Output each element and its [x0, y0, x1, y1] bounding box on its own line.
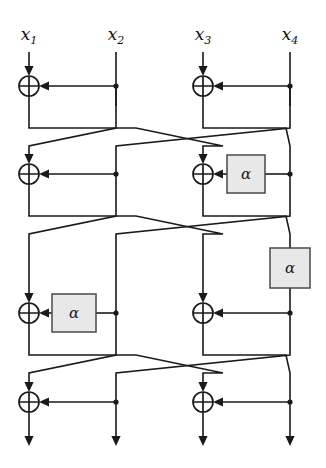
- input-label-x1: x1: [21, 24, 38, 47]
- output-arrowhead-out1: [24, 436, 33, 446]
- input-arrowhead-x3: [198, 66, 207, 76]
- feistel-diagram-root: ααα x1x2x3x4: [0, 0, 326, 468]
- function-box-alpha-r2-right: α: [227, 155, 265, 193]
- output-arrowhead-out4: [285, 436, 294, 446]
- function-box-alpha-r3-left: α: [52, 294, 96, 332]
- feed-arrowhead-left-r1: [39, 81, 49, 90]
- feistel-network-diagram: ααα x1x2x3x4: [0, 0, 326, 468]
- function-box-label-alpha-r3-left: α: [69, 304, 79, 322]
- perm2-wire-c1-to-c3: [29, 194, 223, 280]
- perm3-wire-c1-to-c3: [29, 333, 223, 382]
- tap-dot-tap-r1-c2: [113, 83, 118, 88]
- perm3-wire-c2-to-c1: [29, 333, 116, 382]
- perm2-wire-c2-to-c1: [29, 194, 116, 280]
- xor-gate-xor-r2-left: [19, 164, 39, 184]
- fbox-layer: ααα: [52, 155, 310, 332]
- perm3-wire-c3-to-c4: [203, 333, 290, 382]
- function-box-label-alpha-inline-right: α: [285, 259, 295, 277]
- output-arrowhead-out2: [111, 436, 120, 446]
- perm1-wire-c1-to-c3: [29, 106, 223, 154]
- input-arrowhead-x1: [24, 66, 33, 76]
- feed-arrowhead-right-r2: [213, 169, 223, 178]
- feed-arrowhead-right-r4: [213, 397, 223, 406]
- xor-gate-xor-r1-left: [19, 76, 39, 96]
- xor-gate-xor-r2-right: [193, 164, 213, 184]
- tap-dot-tap-r2-c4: [287, 171, 292, 176]
- function-box-label-alpha-r2-right: α: [241, 165, 251, 183]
- xor-gate-xor-r4-right: [193, 392, 213, 412]
- input-label-x3: x3: [195, 24, 212, 47]
- tap-dot-tap-r2-c2: [113, 171, 118, 176]
- feed-arrowhead-left-r2: [39, 169, 49, 178]
- tap-dot-tap-r3-c2: [113, 310, 118, 315]
- input-label-x4: x4: [282, 24, 299, 47]
- tap-dot-tap-r4-c4: [287, 399, 292, 404]
- tap-dot-tap-r1-c4: [287, 83, 292, 88]
- feed-arrowhead-left-r3: [39, 308, 49, 317]
- feed-arrowhead-right-r1: [213, 81, 223, 90]
- feed-arrowhead-right-r3: [213, 308, 223, 317]
- xor-gate-xor-r3-left: [19, 303, 39, 323]
- wire-layer: [24, 52, 294, 446]
- tap-dot-tap-r3-c4: [287, 310, 292, 315]
- perm1-wire-c2-to-c1: [29, 106, 116, 154]
- xor-gate-xor-r1-right: [193, 76, 213, 96]
- input-label-x2: x2: [108, 24, 125, 47]
- xor-gate-xor-r4-left: [19, 392, 39, 412]
- tap-dot-tap-r4-c2: [113, 399, 118, 404]
- input-label-layer: x1x2x3x4: [21, 24, 299, 47]
- xor-gate-xor-r3-right: [193, 303, 213, 323]
- output-arrowhead-out3: [198, 436, 207, 446]
- function-box-alpha-inline-right: α: [270, 248, 310, 288]
- feed-arrowhead-left-r4: [39, 397, 49, 406]
